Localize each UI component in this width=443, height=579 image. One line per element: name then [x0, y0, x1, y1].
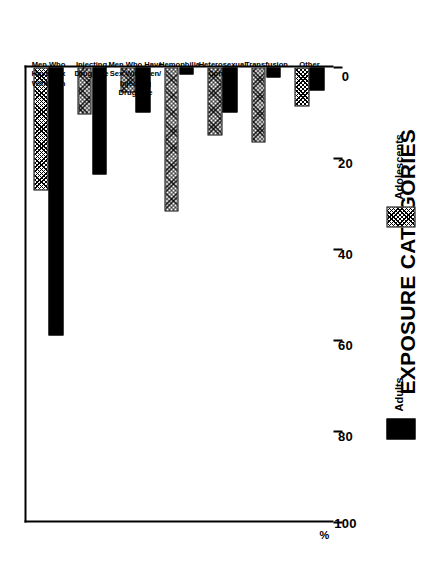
category-label-line: Other	[275, 59, 343, 68]
value-axis-tick-label: 20	[338, 156, 353, 171]
plot-frame-left	[24, 520, 333, 522]
legend-swatch-adolescents	[386, 206, 415, 227]
bar-adults	[309, 67, 324, 90]
value-axis-label: %	[319, 528, 329, 540]
category-label-line: Sex With Men/	[101, 68, 169, 77]
category-label-line: Injecting	[101, 78, 169, 87]
rotated-figure: % 020406080100 Men WhoHave SexWith MenIn…	[0, 0, 443, 579]
bar-adults	[48, 67, 63, 335]
chart-canvas: % 020406080100 Men WhoHave SexWith MenIn…	[0, 0, 443, 579]
bar-adolescents	[294, 67, 309, 106]
value-axis-tick-label: 100	[334, 516, 356, 531]
category-label-line: Contact	[188, 68, 256, 77]
legend-label-adults: Adults	[392, 377, 404, 411]
category-label: Other	[275, 59, 343, 68]
bar-adolescents	[251, 67, 266, 142]
value-axis-tick-label: 0	[341, 68, 348, 83]
category-label-line: Drug Use	[101, 87, 169, 96]
plot-frame-top	[24, 65, 26, 522]
value-axis-tick-label: 60	[338, 338, 353, 353]
value-axis-tick-label: 40	[338, 247, 353, 262]
category-label-line: With Men	[14, 78, 82, 87]
legend-swatch-adults	[386, 418, 415, 439]
value-axis-tick-label: 80	[338, 429, 353, 444]
legend-label-adolescents: Adolescents	[392, 134, 404, 199]
